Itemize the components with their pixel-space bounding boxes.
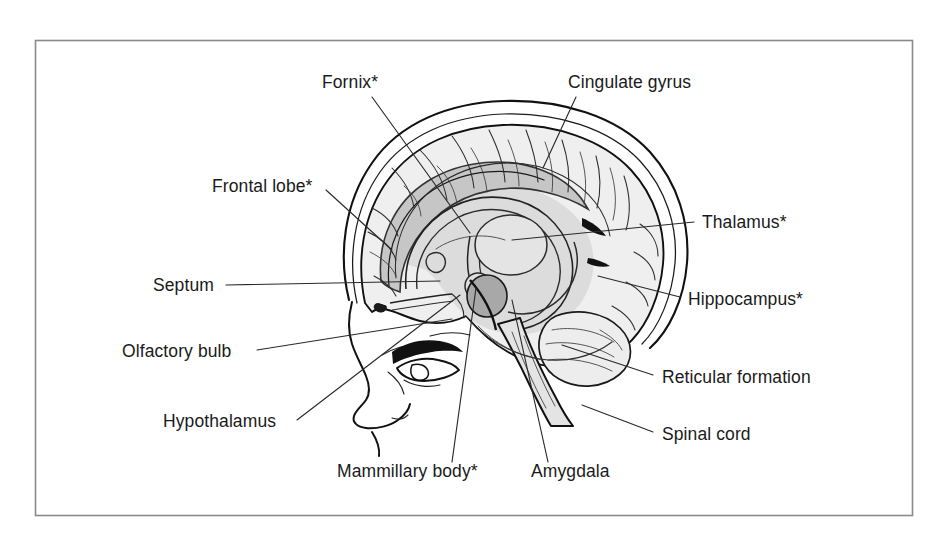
label-septum: Septum (153, 275, 214, 295)
label-cingulate-gyrus: Cingulate gyrus (568, 72, 691, 92)
label-hippocampus: Hippocampus* (688, 289, 803, 309)
label-spinal-cord: Spinal cord (662, 424, 751, 444)
brain-diagram-canvas: Fornix* Cingulate gyrus Frontal lobe* Th… (0, 0, 951, 552)
label-hypothalamus: Hypothalamus (163, 411, 276, 431)
label-olfactory-bulb: Olfactory bulb (122, 341, 231, 361)
anatomy-figure: Fornix* Cingulate gyrus Frontal lobe* Th… (0, 0, 951, 552)
label-frontal-lobe: Frontal lobe* (212, 176, 313, 196)
thalamus-body (475, 215, 547, 275)
label-reticular-formation: Reticular formation (662, 367, 811, 387)
label-mammillary-body: Mammillary body* (337, 461, 478, 481)
label-thalamus: Thalamus* (702, 212, 787, 232)
label-fornix: Fornix* (322, 72, 378, 92)
label-amygdala: Amygdala (531, 461, 610, 481)
